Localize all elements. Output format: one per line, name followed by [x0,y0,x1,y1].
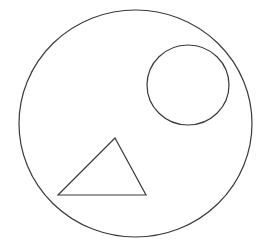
triangle [58,138,146,195]
outer-circle [19,10,252,237]
diagram-canvas [0,0,269,246]
inner-circle [147,45,229,125]
